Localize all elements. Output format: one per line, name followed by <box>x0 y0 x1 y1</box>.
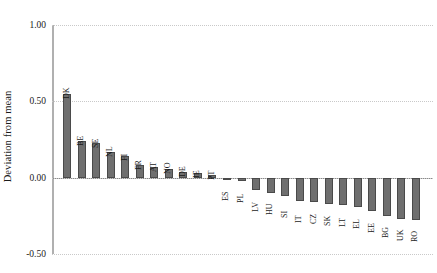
bar-label-nl: NL <box>106 146 114 157</box>
bar-chart-figure: Deviation from mean 1.000.500.00-0.50 DK… <box>0 0 437 273</box>
bar-cz <box>310 178 318 202</box>
bar-label-fi: FI <box>121 154 129 161</box>
bar-label-lv: LV <box>252 202 260 212</box>
bar-label-pt: PT <box>208 170 216 179</box>
bar-label-hu: HU <box>266 203 274 215</box>
bar-label-bg: BG <box>382 227 390 238</box>
y-axis-tick-labels: 1.000.500.00-0.50 <box>6 0 46 273</box>
bar-label-es: ES <box>222 192 230 201</box>
bar-label-ro: RO <box>411 231 419 242</box>
bar-label-no: NO <box>164 162 172 174</box>
bar-label-sk: SK <box>324 215 332 225</box>
plot-area: DKBESENLFIFRATNODEIEPTESPLLVHUSIITCZSKLT… <box>52 25 433 254</box>
bar-label-de: DE <box>179 166 187 177</box>
bar-es <box>223 178 231 180</box>
bar-label-el: EL <box>353 219 361 229</box>
bar-label-be: BE <box>77 136 85 146</box>
bar-be <box>78 141 86 178</box>
y-axis-tick-label: 0.00 <box>12 173 46 183</box>
bar-label-ie: IE <box>193 171 201 179</box>
bar-ee <box>368 178 376 212</box>
y-axis-tick-label: 1.00 <box>12 20 46 30</box>
bar-lt <box>339 178 347 205</box>
bar-sk <box>325 178 333 204</box>
bar-ro <box>412 178 420 221</box>
bar-uk <box>397 178 405 219</box>
y-axis-tick-label: -0.50 <box>12 249 46 259</box>
bar-si <box>281 178 289 196</box>
bar-label-at: AT <box>150 162 158 172</box>
bar-label-lt: LT <box>339 218 347 227</box>
bar-label-fr: FR <box>135 161 143 171</box>
bar-label-it: IT <box>295 215 303 223</box>
bar-lv <box>252 178 260 190</box>
bar-it <box>296 178 304 201</box>
gridline <box>52 254 433 255</box>
bar-label-se: SE <box>92 138 100 147</box>
bar-pl <box>238 178 246 181</box>
bar-label-ee: EE <box>368 223 376 233</box>
bar-dk <box>63 94 71 178</box>
y-axis-tick-label: 0.50 <box>12 96 46 106</box>
bar-label-pl: PL <box>237 193 245 202</box>
bar-el <box>354 178 362 207</box>
bar-label-cz: CZ <box>310 214 318 224</box>
y-axis-line <box>52 25 54 254</box>
bar-label-uk: UK <box>397 229 405 241</box>
bar-hu <box>267 178 275 193</box>
bar-label-si: SI <box>281 211 289 218</box>
bar-label-dk: DK <box>63 87 71 99</box>
gridline <box>52 25 433 26</box>
bar-bg <box>383 178 391 216</box>
gridline <box>52 101 433 102</box>
